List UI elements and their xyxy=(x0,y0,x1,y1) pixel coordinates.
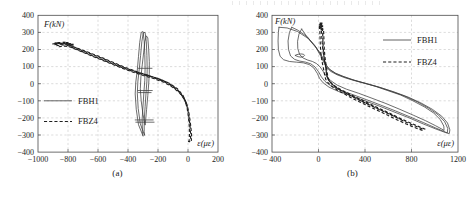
series-curve-fbz4 xyxy=(52,43,189,143)
series-marker-fbz4 xyxy=(68,43,71,45)
y-tick-label: 0 xyxy=(264,80,268,89)
x-tick-label: −1000 xyxy=(28,155,49,164)
series-marker-fbz4 xyxy=(57,42,60,44)
y-tick-label: 400 xyxy=(22,11,34,20)
panel-a: −400−300−200−1000100200300400 −1000−800−… xyxy=(0,0,235,197)
chart-b-legend: FBH1 FBZ4 xyxy=(383,35,438,67)
chart-a-y-axis-title: F(kN) xyxy=(43,19,64,29)
series-curve-fbh1 xyxy=(295,54,304,57)
x-tick-label: 1200 xyxy=(450,155,466,164)
y-tick-label: −300 xyxy=(251,131,268,140)
legend-label-fbz4: FBZ4 xyxy=(417,57,438,67)
series-curve-fbz4 xyxy=(319,26,423,131)
chart-a-tickmarks xyxy=(38,32,188,152)
series-marker-fbz4 xyxy=(55,42,58,44)
y-tick-label: −100 xyxy=(251,97,268,106)
chart-a-y-tick-labels: −400−300−200−1000100200300400 xyxy=(17,11,34,157)
legend-label-fbh1: FBH1 xyxy=(417,35,438,45)
y-tick-label: −100 xyxy=(17,97,34,106)
panel-b: −400−300−200−1000100200300400 − 40004008… xyxy=(235,0,470,197)
series-marker-fbz4 xyxy=(66,42,69,44)
x-tick-label: −600 xyxy=(90,155,107,164)
y-tick-label: 200 xyxy=(22,45,34,54)
series-marker-fbz4 xyxy=(63,42,66,44)
y-tick-label: −300 xyxy=(17,131,34,140)
x-tick-label: −400 xyxy=(120,155,137,164)
x-tick-label: 0 xyxy=(317,155,321,164)
chart-b-y-tick-labels: −400−300−200−1000100200300400 xyxy=(251,11,268,157)
y-tick-label: 300 xyxy=(256,28,268,37)
series-curve-fbz4 xyxy=(56,45,191,141)
series-curve-fbz4 xyxy=(324,31,405,121)
y-tick-label: −200 xyxy=(251,114,268,123)
chart-a: −400−300−200−1000100200300400 −1000−800−… xyxy=(0,0,235,168)
x-tick-label: 800 xyxy=(406,155,418,164)
chart-b: −400−300−200−1000100200300400 − 40004008… xyxy=(235,0,470,168)
series-marker-fbz4 xyxy=(60,43,63,45)
x-tick-label: −200 xyxy=(150,155,167,164)
chart-b-x-tick-labels: − 40004008001200 xyxy=(263,155,466,164)
chart-a-x-tick-labels: −1000−800−600−400−2000200 xyxy=(28,155,224,164)
chart-a-legend: FBH1 FBZ4 xyxy=(44,96,99,127)
legend-label-fbh1: FBH1 xyxy=(78,96,99,106)
series-marker-fbz4 xyxy=(319,27,322,29)
y-tick-label: 100 xyxy=(22,62,34,71)
y-tick-label: 300 xyxy=(22,28,34,37)
chart-b-x-axis-title: ε(με) xyxy=(437,138,454,148)
series-curve-fbz4 xyxy=(322,28,423,129)
y-tick-label: 400 xyxy=(256,11,268,20)
legend-label-fbz4: FBZ4 xyxy=(78,116,99,126)
panel-a-caption: (a) xyxy=(0,168,235,178)
x-tick-label: − 400 xyxy=(263,155,282,164)
y-tick-label: 100 xyxy=(256,62,268,71)
figure-container: −400−300−200−1000100200300400 −1000−800−… xyxy=(0,0,470,197)
x-tick-label: −800 xyxy=(60,155,77,164)
x-tick-label: 200 xyxy=(212,155,224,164)
chart-b-y-axis-title: F(kN) xyxy=(274,16,295,26)
y-tick-label: 0 xyxy=(30,80,34,89)
series-curve-fbz4 xyxy=(55,44,191,142)
panel-b-caption: (b) xyxy=(235,168,470,178)
y-tick-label: 200 xyxy=(256,45,268,54)
series-marker-fbz4 xyxy=(321,28,324,30)
scan-artifact xyxy=(232,1,382,5)
y-tick-label: −200 xyxy=(17,114,34,123)
x-tick-label: 400 xyxy=(359,155,371,164)
chart-a-x-axis-title: ε(με) xyxy=(197,138,214,148)
series-marker-fbz4 xyxy=(71,44,74,46)
x-tick-label: 0 xyxy=(186,155,190,164)
chart-a-series-curves xyxy=(52,32,191,143)
